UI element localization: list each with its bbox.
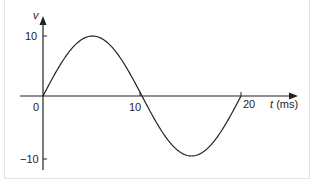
y-tick-label-10: 10 xyxy=(25,30,37,42)
x-tick-label-0: 0 xyxy=(33,101,39,113)
sine-wave-chart: v 10 −10 0 10 20 t (ms) xyxy=(0,0,314,180)
x-axis-var: t xyxy=(270,98,274,110)
x-tick-label-20: 20 xyxy=(243,98,255,110)
x-tick-label-10: 10 xyxy=(129,101,141,113)
y-axis-label: v xyxy=(33,9,40,21)
x-axis-unit: (ms) xyxy=(276,98,298,110)
x-axis-label: t (ms) xyxy=(270,98,298,110)
y-axis-arrow-icon xyxy=(40,16,47,25)
y-tick-label-neg10: −10 xyxy=(20,153,39,165)
